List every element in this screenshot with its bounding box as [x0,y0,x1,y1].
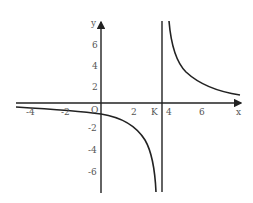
x-tick-label: -2 [61,107,70,117]
y-tick-label: 4 [92,61,98,71]
y-axis-label: y [90,18,97,28]
y-tick-label: -6 [88,167,97,177]
asymptote-label: K [151,107,158,117]
y-tick-label: -4 [88,145,97,155]
x-axis-label: x [236,107,241,117]
x-tick-label: 6 [199,107,205,117]
function-graph: y x O K -4 -2 2 4 6 6 4 2 -2 -4 -6 [0,0,253,203]
x-tick-label: 2 [131,107,137,117]
origin-label: O [91,105,98,115]
y-tick-label: 6 [92,40,98,50]
curve-right-branch [169,21,240,95]
curve-left-branch [16,107,156,192]
x-tick-label: -4 [26,107,35,117]
y-tick-label: -2 [88,123,97,133]
y-tick-label: 2 [92,82,98,92]
x-tick-label: 4 [166,107,172,117]
